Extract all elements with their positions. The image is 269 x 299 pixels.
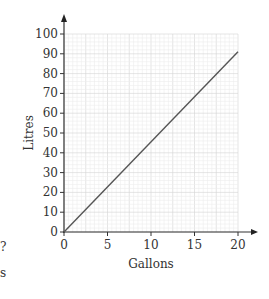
x-tick-label: 0 [60, 238, 68, 252]
x-tick-label: 10 [143, 238, 158, 252]
tick-labels: 010203040506070809010005101520 [35, 27, 246, 252]
y-tick-label: 50 [43, 126, 58, 140]
y-tick-label: 60 [43, 106, 58, 120]
y-axis-label: Litres [22, 115, 36, 151]
y-tick-label: 90 [43, 47, 58, 61]
y-tick-label: 70 [43, 86, 58, 100]
x-tick-label: 5 [104, 238, 112, 252]
grid [64, 34, 238, 232]
conversion-chart: 010203040506070809010005101520 Gallons L… [0, 0, 269, 299]
y-tick-label: 100 [35, 27, 58, 41]
x-axis-label: Gallons [128, 257, 174, 271]
y-tick-label: 80 [43, 67, 58, 81]
y-tick-label: 10 [43, 205, 58, 219]
x-tick-label: 20 [230, 238, 245, 252]
y-tick-label: 20 [43, 185, 58, 199]
y-tick-label: 30 [43, 166, 58, 180]
x-tick-label: 15 [187, 238, 202, 252]
y-tick-label: 0 [50, 225, 58, 239]
y-tick-label: 40 [43, 146, 58, 160]
